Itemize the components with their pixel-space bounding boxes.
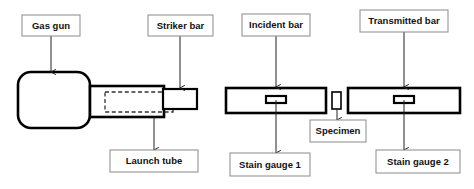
label-strain-gauge-2-text: Stain gauge 2 [387,156,449,167]
label-gas-gun-text: Gas gun [32,20,70,31]
label-strain-gauge-2: Stain gauge 2 [376,150,460,173]
label-strain-gauge-1: Stain gauge 1 [230,153,310,176]
parts-group [18,72,460,128]
diagram-canvas: Gas gun Striker bar Incident bar Transmi… [0,0,474,189]
label-gas-gun: Gas gun [22,15,80,36]
label-incident-bar: Incident bar [242,14,310,36]
label-incident-bar-text: Incident bar [249,19,303,30]
label-launch-tube-text: Launch tube [126,155,182,166]
label-launch-tube: Launch tube [110,150,198,172]
label-striker-bar: Striker bar [148,15,213,36]
gas-gun-body [18,72,90,128]
label-transmitted-bar-text: Transmitted bar [368,15,440,26]
label-transmitted-bar: Transmitted bar [360,10,448,32]
label-striker-bar-text: Striker bar [157,20,205,31]
apparatus-diagram: Gas gun Striker bar Incident bar Transmi… [0,0,474,189]
label-specimen-text: Specimen [316,125,361,136]
label-specimen: Specimen [310,120,366,142]
specimen-body [332,92,341,109]
label-strain-gauge-1-text: Stain gauge 1 [239,159,301,170]
striker-bar-body [163,89,197,109]
